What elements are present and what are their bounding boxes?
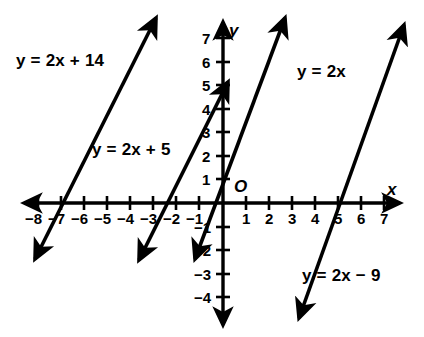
y-tick-label-5: 5 [202, 78, 210, 93]
x-tick-label-4: 4 [311, 211, 319, 226]
x-tick-label--4: −4 [117, 211, 134, 226]
x-tick-label-1: 1 [242, 211, 250, 226]
equation-label-y-2x-plus-14: y = 2x + 14 [16, 52, 104, 69]
coordinate-graph: y = 2x + 14 y = 2x + 5 y = 2x y = 2x − 9… [0, 0, 424, 337]
y-axis-letter: y [229, 22, 238, 39]
y-tick-label-7: 7 [202, 31, 210, 46]
y-tick-label--4: −4 [194, 290, 211, 305]
x-tick-label-6: 6 [357, 211, 365, 226]
y-tick-label-1: 1 [202, 172, 210, 187]
line-y-2x-plus-5 [139, 82, 228, 260]
x-tick-label-5: 5 [334, 211, 342, 226]
equation-label-y-2x: y = 2x [297, 63, 346, 80]
y-tick-label--3: −3 [194, 267, 211, 282]
x-tick-label--8: −8 [25, 211, 42, 226]
x-tick-label--2: −2 [163, 211, 180, 226]
x-tick-label--7: −7 [48, 211, 65, 226]
origin-label: O [234, 178, 247, 195]
y-tick-label-4: 4 [202, 102, 210, 117]
equation-label-y-2x-plus-5: y = 2x + 5 [92, 141, 171, 158]
equation-label-y-2x-minus-9: y = 2x − 9 [302, 267, 381, 284]
y-tick-label--1: −1 [194, 220, 211, 235]
x-axis-letter: x [387, 181, 396, 198]
x-tick-label-3: 3 [288, 211, 296, 226]
y-tick-label-6: 6 [202, 55, 210, 70]
y-tick-label--2: −2 [194, 243, 211, 258]
x-tick-label--6: −6 [71, 211, 88, 226]
x-tick-label-7: 7 [380, 211, 388, 226]
x-tick-label-2: 2 [265, 211, 273, 226]
x-tick-label--5: −5 [94, 211, 111, 226]
y-tick-label-3: 3 [202, 125, 210, 140]
x-tick-label--3: −3 [140, 211, 157, 226]
y-tick-label-2: 2 [202, 149, 210, 164]
